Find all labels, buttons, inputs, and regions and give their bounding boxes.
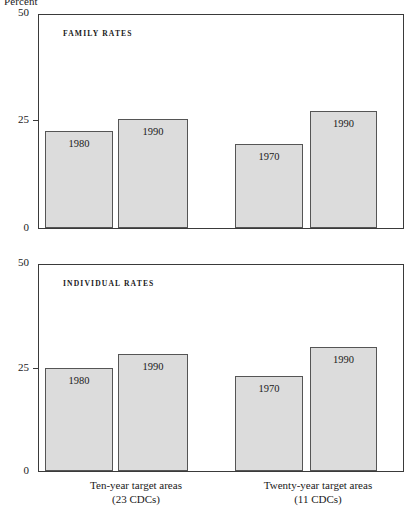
x-axis-group-label-twenty-year: Twenty-year target areas (11 CDCs) — [222, 478, 412, 506]
group-label-line2: (23 CDCs) — [40, 492, 232, 506]
bar-family-twenty-year-1970: 1970 — [235, 144, 303, 228]
panel-title-family-rates: FAMILY RATES — [63, 29, 133, 38]
bar-label: 1990 — [311, 354, 376, 365]
bar-family-twenty-year-1990: 1990 — [310, 111, 377, 228]
poverty-rates-bar-chart-figure: Percent FAMILY RATES 50 25 0 1980 1990 1… — [0, 0, 412, 508]
chart-panel-family-rates: FAMILY RATES 50 25 0 1980 1990 1970 1990 — [38, 14, 404, 229]
bar-individual-twenty-year-1990: 1990 — [310, 347, 377, 471]
y-tick-label-0-top: 0 — [24, 221, 30, 233]
y-tick-label-25-top: 25 — [18, 113, 29, 125]
group-label-line1: Twenty-year target areas — [264, 479, 372, 491]
bar-label: 1970 — [236, 383, 302, 394]
bar-individual-ten-year-1980: 1980 — [45, 368, 113, 471]
bar-label: 1990 — [119, 361, 187, 372]
bar-label: 1990 — [311, 118, 376, 129]
bar-label: 1980 — [46, 138, 112, 149]
y-tick-label-50-top: 50 — [18, 6, 29, 18]
bar-label: 1980 — [46, 375, 112, 386]
y-tick-label-25-bottom: 25 — [18, 361, 29, 373]
group-label-line1: Ten-year target areas — [90, 479, 182, 491]
bar-label: 1970 — [236, 151, 302, 162]
bar-individual-ten-year-1990: 1990 — [118, 354, 188, 471]
panel-title-individual-rates: INDIVIDUAL RATES — [63, 279, 154, 288]
y-tick-25-top: 25 — [33, 120, 39, 121]
bar-individual-twenty-year-1970: 1970 — [235, 376, 303, 471]
group-label-line2: (11 CDCs) — [222, 492, 412, 506]
chart-panel-individual-rates: INDIVIDUAL RATES 50 25 0 1980 1990 1970 … — [38, 264, 404, 472]
y-tick-25-bottom: 25 — [33, 368, 39, 369]
bar-family-ten-year-1990: 1990 — [118, 119, 188, 228]
y-tick-label-0-bottom: 0 — [24, 464, 30, 476]
x-axis-group-label-ten-year: Ten-year target areas (23 CDCs) — [40, 478, 232, 506]
bar-family-ten-year-1980: 1980 — [45, 131, 113, 228]
bar-label: 1990 — [119, 126, 187, 137]
y-tick-label-50-bottom: 50 — [18, 256, 29, 268]
